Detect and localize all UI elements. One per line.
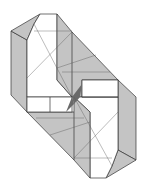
origami-diagram	[0, 0, 146, 190]
right-strip	[82, 80, 118, 97]
left-strip	[27, 97, 72, 112]
